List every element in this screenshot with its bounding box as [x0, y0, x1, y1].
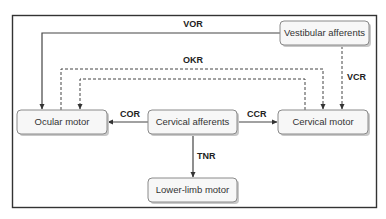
node-label: Vestibular afferents — [284, 27, 365, 38]
node-cervical-afferents: Cervical afferents — [148, 110, 239, 136]
okr-connector-inner — [80, 79, 305, 110]
vcr-label: VCR — [347, 72, 367, 82]
ccr-label: CCR — [247, 109, 267, 119]
node-label: Cervical afferents — [156, 116, 230, 127]
cor-label: COR — [120, 109, 141, 119]
tnr-label: TNR — [197, 151, 216, 161]
node-label: Ocular motor — [35, 116, 90, 127]
okr-connector-outer — [61, 69, 323, 110]
node-vestibular-afferents: Vestibular afferents — [280, 21, 371, 47]
node-label: Lower-limb motor — [156, 184, 229, 195]
node-cervical-motor: Cervical motor — [278, 110, 370, 136]
node-ocular-motor: Ocular motor — [17, 110, 109, 136]
vor-label: VOR — [183, 19, 203, 29]
reflex-diagram: VOR OKR VCR COR CCR TNR Vestibular affer… — [0, 0, 386, 219]
node-lower-limb-motor: Lower-limb motor — [148, 178, 239, 204]
okr-label: OKR — [183, 55, 204, 65]
node-label: Cervical motor — [292, 116, 353, 127]
vor-connector — [42, 33, 280, 109]
